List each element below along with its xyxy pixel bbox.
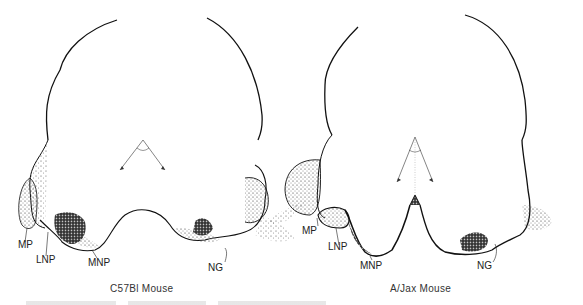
label-ng-ajax: NG	[477, 261, 492, 271]
label-lnp-c57bl: LNP	[36, 255, 55, 265]
label-mp-ajax: MP	[302, 226, 317, 236]
caption-c57bl: C57Bl Mouse	[110, 283, 173, 294]
label-mnp-c57bl: MNP	[88, 258, 110, 268]
label-mp-c57bl: MP	[18, 240, 33, 250]
label-mnp-ajax: MNP	[360, 261, 382, 271]
label-ng-c57bl: NG	[208, 263, 223, 273]
c57bl-embryo-drawing	[19, 18, 295, 262]
caption-ajax: A/Jax Mouse	[390, 283, 451, 294]
cutoff-figure-caption	[26, 301, 326, 305]
label-lnp-ajax: LNP	[328, 242, 347, 252]
